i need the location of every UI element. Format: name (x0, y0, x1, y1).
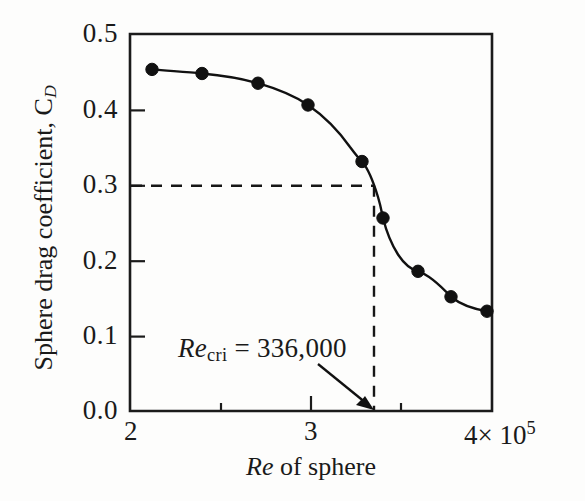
y-tick-label-0: 0.5 (52, 20, 118, 47)
drag-curve (152, 69, 487, 311)
data-point (252, 77, 264, 89)
x-tick-label-0: 2 (122, 418, 140, 445)
annotation-subscript: cri (207, 345, 227, 365)
y-axis-title: Sphere drag coefficient, CD (29, 28, 61, 428)
data-point (445, 291, 457, 303)
y-tick-label-1: 0.4 (52, 96, 118, 123)
annotation-symbol: Re (178, 333, 207, 363)
y-axis-title-subscript: D (40, 85, 60, 98)
critical-reynolds-annotation: Recri = 336,000 (178, 333, 347, 366)
x-tick-label-2: 4 (464, 420, 478, 450)
y-axis-ticks (130, 110, 145, 336)
data-point (377, 212, 389, 224)
data-point (302, 99, 314, 111)
y-tick-label-2: 0.3 (52, 171, 118, 198)
x-axis-title: Re of sphere (130, 452, 492, 482)
annotation-arrow (318, 364, 374, 410)
x-axis-title-symbol: Re (246, 452, 273, 481)
data-point (412, 265, 424, 277)
data-point (356, 155, 368, 167)
x-exponent-multiplier: × 10 (478, 420, 527, 450)
x-tick-label-2-exponent: 4× 105 (464, 418, 536, 451)
y-axis-title-text: Sphere drag coefficient, C (29, 98, 58, 370)
sphere-drag-coefficient-chart: 0.5 0.4 0.3 0.2 0.1 0.0 2 3 4× 105 Spher… (0, 0, 585, 501)
y-tick-label-4: 0.1 (52, 322, 118, 349)
data-markers (146, 63, 493, 317)
y-tick-label-5: 0.0 (52, 397, 118, 424)
data-point (196, 67, 208, 79)
critical-guide-lines (131, 186, 374, 410)
data-point (146, 63, 158, 75)
x-tick-label-1: 3 (302, 418, 320, 445)
annotation-value: = 336,000 (227, 333, 346, 363)
x-exponent-power: 5 (526, 418, 535, 438)
data-point (481, 305, 493, 317)
x-axis-title-text: of sphere (273, 452, 376, 481)
y-tick-label-3: 0.2 (52, 247, 118, 274)
